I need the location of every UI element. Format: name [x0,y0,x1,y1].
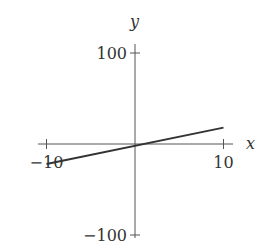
axes [38,44,233,238]
line-chart: −1010−100100 x y [0,0,264,246]
y-tick-label: −100 [83,226,127,245]
y-axis-label: y [129,12,140,31]
x-axis-label: x [246,134,255,153]
y-tick-label: 100 [96,44,127,63]
x-tick-label: 10 [213,153,233,172]
